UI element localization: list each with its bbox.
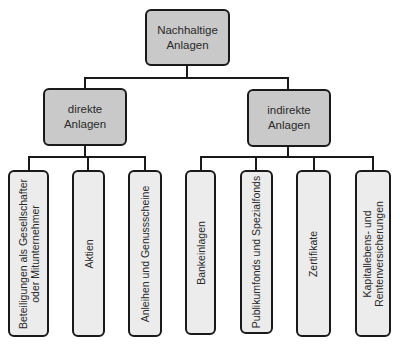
leaf-beteiligungen: Beteiligungen als Gesellschafter oder Mi… [8,170,49,337]
leaf-bankeinlagen-label: Bankeinlagen [195,221,207,285]
node-direkte-label-line1: direkte [64,102,106,117]
connector-leaf-1 [28,156,30,171]
leaf-aktien: Aktien [72,170,105,337]
node-root: Nachhaltige Anlagen [145,9,230,66]
node-indirekte-anlagen: indirekte Anlagen [247,89,331,147]
node-root-label-line2: Anlagen [157,38,218,53]
leaf-kapitallebens-rentenversicherungen: Kapitallebens- und Rentenversicherungen [355,170,391,337]
connector-leaf-2 [87,156,89,171]
leaf-anleihen-genussscheine: Anleihen und Genussscheine [128,170,162,337]
leaf-publikumfonds-spezialfonds: Publikumfonds und Spezialfonds [240,170,273,334]
leaf-zertifikate-label: Zertifikate [308,230,320,276]
leaf-bankeinlagen: Bankeinlagen [185,170,216,335]
leaf-kapitallebens-line2: Rentenversicherungen [373,201,385,307]
connector-leaf-4 [200,156,202,171]
node-indirekte-label-line2: Anlagen [267,118,310,133]
connector-leaf-7 [372,156,374,171]
leaf-beteiligungen-line2: oder Mitunternehmer [29,178,41,328]
connector-leaf-6 [313,156,315,171]
node-direkte-anlagen: direkte Anlagen [43,88,127,146]
node-root-label-line1: Nachhaltige [157,23,218,38]
leaf-aktien-label: Aktien [83,239,95,268]
leaf-zertifikate: Zertifikate [296,170,331,337]
leaf-anleihen-label: Anleihen und Genussscheine [139,185,151,322]
leaf-kapitallebens-line1: Kapitallebens- und [361,201,373,307]
leaf-beteiligungen-line1: Beteiligungen als Gesellschafter [17,178,29,328]
leaf-publikumfonds-label: Publikumfonds und Spezialfonds [251,176,263,328]
connector-indirekte-horizontal [200,156,374,158]
connector-leaf-3 [144,156,146,171]
connector-level1-horizontal [84,77,289,79]
node-direkte-label-line2: Anlagen [64,117,106,132]
connector-leaf-5 [255,156,257,171]
node-indirekte-label-line1: indirekte [267,103,310,118]
